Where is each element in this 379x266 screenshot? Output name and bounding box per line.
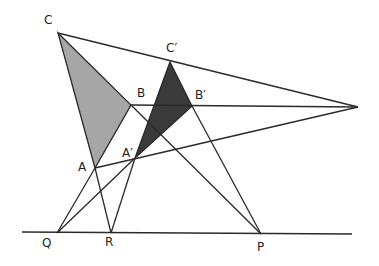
label-a-prime: A′ (122, 147, 133, 159)
line-ca-to-r (95, 168, 111, 233)
label-p: P (257, 241, 264, 253)
label-q: Q (42, 237, 51, 249)
line-ab-to-q (57, 168, 95, 233)
line-cprime-bprime-to-p (192, 106, 261, 234)
geometry-svg (0, 0, 379, 266)
label-b-prime: B′ (195, 89, 206, 101)
label-b: B (137, 87, 145, 99)
diagram-canvas: C B A C′ B′ A′ Q R P (0, 0, 379, 266)
label-a: A (78, 161, 86, 173)
line-cb-to-p (131, 105, 261, 234)
triangle-a-prime-b-prime-c-prime (135, 62, 192, 158)
label-c-prime: C′ (166, 42, 177, 54)
triangle-abc (58, 33, 131, 168)
label-r: R (105, 236, 113, 248)
label-c: C (44, 14, 52, 26)
axis-line-qrp (22, 232, 352, 234)
